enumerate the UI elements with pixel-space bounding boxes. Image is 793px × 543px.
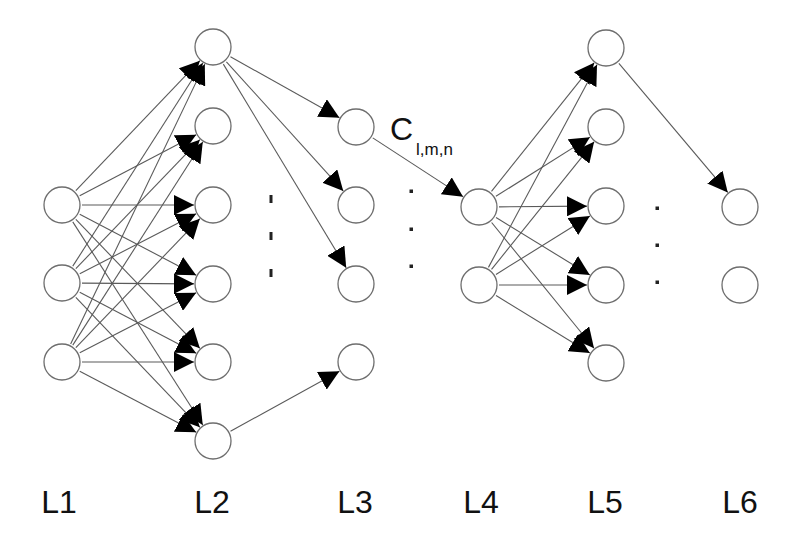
edge-L1-0-to-L2-0 — [76, 61, 200, 191]
layer-label-L3: L3 — [337, 484, 373, 520]
node-L2-0 — [195, 29, 231, 65]
node-L3-0 — [338, 109, 374, 145]
node-L3-2 — [338, 266, 374, 302]
node-L1-1 — [44, 265, 80, 301]
ellipsis-dot-icon — [410, 190, 414, 194]
layer-label-L2: L2 — [194, 484, 230, 520]
edge-weight-symbol: C — [390, 111, 413, 147]
edge-L4-1-to-L5-4 — [496, 295, 590, 353]
layer-label-L6: L6 — [722, 484, 758, 520]
edge-L1-2-to-L2-0 — [71, 64, 205, 344]
node-L6-0 — [722, 189, 758, 225]
edge-L2-0-to-L3-1 — [226, 62, 343, 191]
node-L4-1 — [461, 267, 497, 303]
node-L3-1 — [338, 187, 374, 223]
node-L2-2 — [195, 187, 231, 223]
edge-L2-0-to-L3-2 — [223, 64, 346, 268]
node-L2-1 — [195, 108, 231, 144]
ellipsis-dot-icon — [270, 195, 273, 203]
layer-label-L5: L5 — [587, 484, 623, 520]
node-L1-2 — [44, 344, 80, 380]
node-L4-0 — [461, 189, 497, 225]
ellipsis-dot-icon — [270, 269, 273, 277]
edge-L1-2-to-L2-1 — [73, 142, 203, 345]
neuron-nodes — [44, 29, 758, 459]
node-L2-3 — [195, 266, 231, 302]
node-L1-0 — [44, 187, 80, 223]
node-L5-4 — [588, 345, 624, 381]
ellipsis-dot-icon — [410, 228, 414, 232]
edge-L4-1-to-L5-0 — [488, 65, 597, 268]
layer-labels: L1L2L3L4L5L6 — [41, 484, 758, 520]
ellipsis-dot-icon — [656, 281, 660, 285]
edge-L4-0-to-L5-0 — [491, 63, 594, 192]
edge-L2-0-to-L3-0 — [230, 57, 339, 118]
edge-weight-subscript: l,m,n — [416, 140, 453, 159]
edge-L5-0-to-L6-0 — [619, 63, 728, 192]
edge-L2-5-to-L3-3 — [231, 371, 340, 431]
node-L2-5 — [195, 423, 231, 459]
ellipsis-dot-icon — [410, 265, 414, 269]
network-diagram: C l,m,n L1L2L3L4L5L6 — [0, 0, 793, 543]
node-L6-1 — [722, 267, 758, 303]
node-L5-0 — [588, 30, 624, 66]
edge-L4-1-to-L5-1 — [492, 142, 595, 270]
layer-label-L4: L4 — [463, 484, 499, 520]
node-L5-3 — [588, 267, 624, 303]
layer-label-L1: L1 — [41, 484, 77, 520]
edge-L1-0-to-L2-3 — [80, 214, 196, 275]
node-L2-4 — [195, 344, 231, 380]
edge-weight-label: C l,m,n — [390, 111, 453, 159]
ellipsis-dot-icon — [270, 232, 273, 240]
node-L3-3 — [338, 344, 374, 380]
node-L5-1 — [588, 109, 624, 145]
node-L5-2 — [588, 188, 624, 224]
ellipsis-dot-icon — [656, 244, 660, 248]
ellipsis-dot-icon — [656, 207, 660, 211]
edge-L1-2-to-L2-5 — [80, 371, 196, 432]
